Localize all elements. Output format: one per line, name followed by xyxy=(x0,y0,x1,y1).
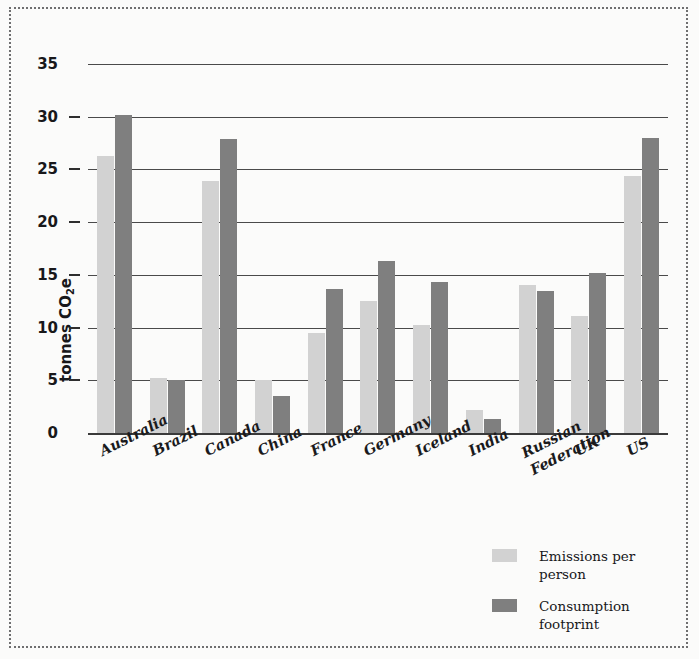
y-axis-title: tonnes CO2e xyxy=(57,277,75,381)
bar-group xyxy=(352,64,405,433)
bar xyxy=(326,289,343,433)
y-tick-label-15: 15 xyxy=(37,266,58,284)
y-tick-label-20: 20 xyxy=(37,213,58,231)
legend-item: Consumption footprint xyxy=(492,597,682,633)
legend-swatch xyxy=(492,549,517,562)
y-tick-label-10: 10 xyxy=(37,319,58,337)
bar-group xyxy=(299,64,352,433)
plot-area xyxy=(88,64,668,433)
bar xyxy=(115,115,132,433)
y-tick-label-0: 0 xyxy=(48,424,58,442)
bar-group xyxy=(404,64,457,433)
chart-page: tonnes CO2e 05101520253035 AustraliaBraz… xyxy=(0,0,699,659)
chart-legend: Emissions per personConsumption footprin… xyxy=(492,547,682,647)
bar xyxy=(519,285,536,433)
bar-group xyxy=(141,64,194,433)
legend-item: Emissions per person xyxy=(492,547,682,583)
y-axis-title-suffix: e xyxy=(57,277,75,287)
x-axis-tick-labels: AustraliaBrazilCanadaChinaFranceGermanyI… xyxy=(88,437,668,532)
y-tick-dash-10 xyxy=(69,327,80,329)
bar xyxy=(537,291,554,433)
bar xyxy=(220,139,237,433)
y-tick-dash-20 xyxy=(69,221,80,223)
y-tick-label-35: 35 xyxy=(37,55,58,73)
legend-label: Emissions per person xyxy=(539,547,682,583)
bar xyxy=(97,156,114,433)
bar xyxy=(378,261,395,433)
y-tick-label-5: 5 xyxy=(48,371,58,389)
y-tick-dash-25 xyxy=(69,168,80,170)
bar-group xyxy=(193,64,246,433)
bar xyxy=(360,301,377,433)
bar-group xyxy=(615,64,668,433)
bar xyxy=(624,176,641,433)
bar-group xyxy=(246,64,299,433)
bar-group xyxy=(563,64,616,433)
x-tick-label: US xyxy=(623,433,652,461)
y-tick-dash-30 xyxy=(69,116,80,118)
bar xyxy=(202,181,219,433)
bar-group xyxy=(457,64,510,433)
y-tick-dash-5 xyxy=(69,379,80,381)
bar xyxy=(308,333,325,433)
bar-group xyxy=(510,64,563,433)
y-tick-label-30: 30 xyxy=(37,108,58,126)
legend-label: Consumption footprint xyxy=(539,597,630,633)
bar-group xyxy=(88,64,141,433)
bar xyxy=(431,282,448,433)
y-axis-title-subscript: 2 xyxy=(65,288,76,295)
legend-swatch xyxy=(492,599,517,612)
bar xyxy=(642,138,659,433)
y-tick-dash-15 xyxy=(69,274,80,276)
y-axis-title-prefix: tonnes CO xyxy=(57,295,75,382)
y-tick-label-25: 25 xyxy=(37,160,58,178)
